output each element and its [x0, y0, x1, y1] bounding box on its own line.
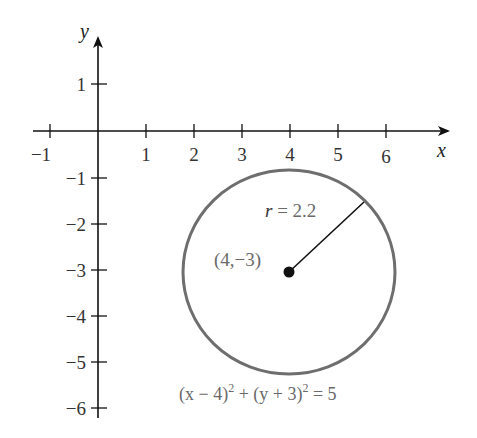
circle-diagram: −1 1 2 3 4 5 6 1 −1 −2 −3 −4 −5 −6 x y (… — [0, 0, 477, 438]
y-axis-label: y — [78, 20, 89, 43]
x-tick-label: 5 — [333, 144, 343, 165]
y-tick-label: −1 — [66, 168, 86, 189]
y-tick-label: −3 — [66, 260, 86, 281]
radius-label: r = 2.2 — [265, 200, 316, 221]
y-tick-label: 1 — [77, 74, 87, 95]
equation-part1: (x − 4) — [179, 384, 228, 405]
x-tick-label: 4 — [285, 144, 295, 165]
x-tick-label: 6 — [381, 146, 391, 167]
equation-part3: = 5 — [308, 384, 336, 404]
x-axis-label: x — [436, 139, 446, 161]
radius-value: = 2.2 — [272, 200, 316, 221]
center-point — [284, 267, 295, 278]
x-tick-label: 3 — [237, 144, 247, 165]
y-tick-label: −5 — [66, 352, 86, 373]
equation-part2: + (y + 3) — [234, 384, 302, 405]
y-tick-label: −6 — [66, 398, 86, 419]
y-ticks — [91, 84, 107, 408]
x-tick-label: −1 — [31, 144, 51, 165]
y-tick-label: −2 — [66, 214, 86, 235]
x-tick-label: 1 — [141, 144, 151, 165]
center-label: (4,−3) — [214, 249, 261, 271]
circle-equation: (x − 4)2 + (y + 3)2 = 5 — [179, 381, 337, 405]
x-tick-label: 2 — [189, 144, 199, 165]
y-tick-label: −4 — [66, 306, 87, 327]
